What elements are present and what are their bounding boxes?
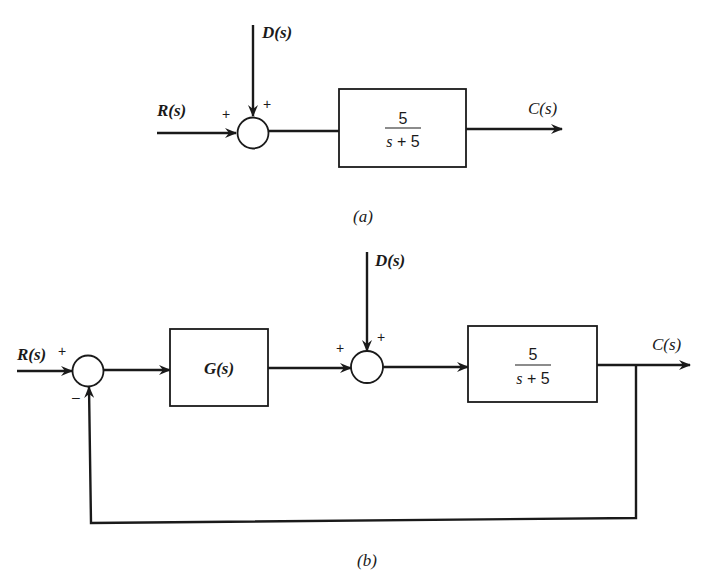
a-caption: (a) (353, 207, 373, 226)
b-controller-label: G(s) (204, 359, 234, 378)
diagram-a: R(s) + D(s) + 5 s + 5 C(s) (a) (156, 23, 562, 226)
a-input-label: R(s) (156, 101, 186, 120)
b-caption: (b) (357, 551, 377, 570)
diagram-b: R(s) + – G(s) + D(s) + 5 s + 5 C(s) (16, 251, 690, 570)
a-sum-sign-disturbance: + (263, 96, 271, 112)
b-output-label: C(s) (652, 335, 682, 354)
a-disturbance-label: D(s) (261, 23, 292, 42)
b-sum1-sign-feedback: – (72, 389, 80, 405)
b-input-label: R(s) (16, 345, 46, 364)
a-plant-denominator: s + 5 (386, 133, 419, 150)
b-disturbance-label: D(s) (374, 251, 405, 270)
b-summing-junction-2 (351, 351, 383, 383)
b-sum2-sign-disturbance: + (377, 329, 385, 345)
a-output-label: C(s) (528, 99, 558, 118)
a-plant-numerator: 5 (399, 110, 408, 127)
a-summing-junction (238, 118, 269, 149)
block-diagram-canvas: R(s) + D(s) + 5 s + 5 C(s) (a) R(s) + – (0, 0, 703, 583)
b-summing-junction-1 (73, 356, 104, 387)
a-sum-sign-input: + (222, 106, 230, 122)
b-sum1-sign-input: + (58, 343, 66, 359)
b-plant-block (468, 326, 597, 402)
b-sum2-sign-input: + (336, 340, 344, 356)
b-plant-numerator: 5 (529, 346, 538, 363)
b-plant-denominator: s + 5 (516, 370, 549, 387)
